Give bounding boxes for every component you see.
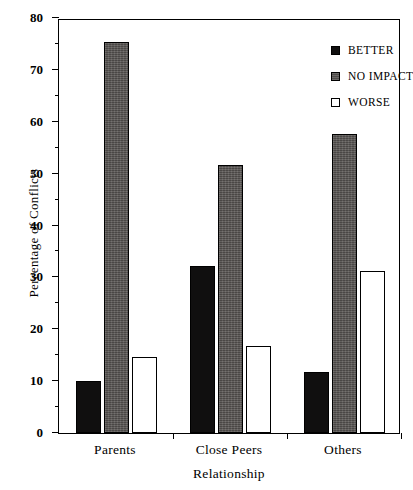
- y-axis-minor-tick: [55, 406, 59, 407]
- y-axis-tick-label: 50: [30, 166, 43, 182]
- y-axis-tick: 10: [52, 380, 59, 381]
- y-axis-tick-label: 80: [30, 10, 43, 26]
- y-axis-tick: 30: [52, 276, 59, 277]
- y-axis-tick: 20: [52, 328, 59, 329]
- y-axis-tick: 60: [52, 121, 59, 122]
- legend-label: NO IMPACT: [348, 70, 413, 82]
- x-axis-tick: [287, 433, 288, 439]
- x-axis-category-label: Close Peers: [196, 442, 263, 458]
- y-axis-minor-tick: [55, 43, 59, 44]
- y-axis-tick-label: 0: [37, 425, 44, 441]
- legend-swatch-icon: [331, 72, 340, 81]
- bar-close-peers-better: [190, 266, 215, 433]
- legend-item-no-impact: NO IMPACT: [331, 70, 413, 82]
- legend-item-worse: WORSE: [331, 96, 413, 108]
- y-axis-tick: 40: [52, 225, 59, 226]
- legend-swatch-icon: [331, 46, 340, 55]
- x-axis-category-label: Parents: [94, 442, 136, 458]
- y-axis-tick-label: 10: [30, 373, 43, 389]
- x-axis-tick: [401, 433, 402, 439]
- y-axis-tick-label: 40: [30, 218, 43, 234]
- y-axis-tick: 80: [52, 17, 59, 18]
- bar-parents-worse: [132, 357, 157, 433]
- y-axis-tick-label: 60: [30, 114, 43, 130]
- bar-close-peers-worse: [246, 346, 271, 433]
- x-axis-title: Relationship: [58, 466, 400, 482]
- y-axis-minor-tick: [55, 199, 59, 200]
- y-axis-minor-tick: [55, 250, 59, 251]
- y-axis-minor-tick: [55, 354, 59, 355]
- x-axis-tick: [173, 433, 174, 439]
- legend-label: BETTER: [348, 44, 394, 56]
- bar-others-better: [304, 372, 329, 433]
- x-axis-category-label: Others: [324, 442, 362, 458]
- legend-swatch-icon: [331, 98, 340, 107]
- y-axis-tick-label: 70: [30, 62, 43, 78]
- legend-label: WORSE: [348, 96, 390, 108]
- chart-legend: BETTERNO IMPACTWORSE: [331, 44, 413, 108]
- legend-item-better: BETTER: [331, 44, 413, 56]
- bar-others-worse: [360, 271, 385, 433]
- y-axis-tick: 0: [52, 432, 59, 433]
- y-axis-minor-tick: [55, 302, 59, 303]
- y-axis-tick-label: 20: [30, 321, 43, 337]
- y-axis-tick: 70: [52, 69, 59, 70]
- y-axis-tick: 50: [52, 173, 59, 174]
- bar-others-no-impact: [332, 134, 357, 433]
- bar-close-peers-no-impact: [218, 165, 243, 433]
- bar-parents-better: [76, 381, 101, 433]
- y-axis-minor-tick: [55, 147, 59, 148]
- bar-parents-no-impact: [104, 42, 129, 433]
- y-axis-tick-label: 30: [30, 269, 43, 285]
- y-axis-minor-tick: [55, 95, 59, 96]
